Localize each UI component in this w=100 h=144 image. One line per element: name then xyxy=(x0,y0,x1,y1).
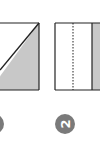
shaded-triangle xyxy=(0,23,39,90)
step-1-badge xyxy=(0,114,4,134)
diagram-canvas: 2 xyxy=(0,0,100,144)
step-number: 2 xyxy=(58,119,73,128)
shaded-strip xyxy=(92,23,100,90)
badge-circle xyxy=(0,114,4,134)
step-2-figure xyxy=(55,23,100,90)
step-1-figure xyxy=(0,23,39,90)
step-2-badge: 2 xyxy=(55,114,75,134)
